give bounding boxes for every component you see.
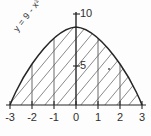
y-tick-label-5: 5: [80, 60, 86, 71]
x-tick-label-1: 1: [89, 112, 107, 123]
y-tick-label-10: 10: [80, 8, 92, 19]
x-tick-label-neg2: -2: [23, 112, 41, 123]
x-tick-label-neg1: -1: [45, 112, 63, 123]
x-tick-label-0: 0: [67, 112, 85, 123]
x-tick-label-neg3: -3: [1, 112, 19, 123]
parabola-area-figure: y = 9 - x² 10 5 -3 -2 -1 0 1 2 3: [0, 0, 151, 136]
x-tick-label-2: 2: [111, 112, 129, 123]
interior-speck: [108, 68, 110, 70]
x-tick-label-3: 3: [133, 112, 151, 123]
